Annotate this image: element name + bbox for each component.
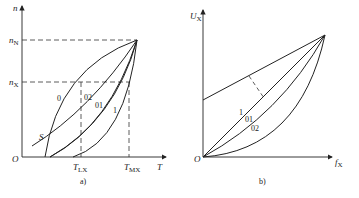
curve-label-01: 01 <box>95 101 103 110</box>
curve-label-02: 02 <box>84 93 92 102</box>
curve-1-b <box>203 35 325 157</box>
panel-b-origin-label: O <box>194 154 201 164</box>
panel-b: UX O fX 1 01 02 b) <box>190 10 343 186</box>
offset-straight-line <box>203 35 325 100</box>
curve-label-1: 1 <box>113 106 117 115</box>
nX-label: nX <box>9 77 19 89</box>
panel-a-y-axis-label: n <box>13 3 18 13</box>
panel-a-x-axis-label: T <box>157 162 163 172</box>
figure-canvas: n nN nX O TLX TMX T 0 02 01 1 S a) UX O … <box>0 0 359 198</box>
curve-label-02-b: 02 <box>251 124 259 133</box>
point-S-label: S <box>39 132 44 142</box>
curve-1 <box>73 40 137 157</box>
curve-label-0: 0 <box>57 94 61 103</box>
panel-b-y-axis-label: UX <box>190 11 202 23</box>
panel-a-origin-label: O <box>12 154 19 164</box>
panel-a: n nN nX O TLX TMX T 0 02 01 1 S a) <box>9 3 166 186</box>
curve-01 <box>50 40 137 157</box>
panel-b-caption: b) <box>259 177 266 186</box>
panel-b-x-axis-label: fX <box>335 157 343 169</box>
compensation-dashed-line <box>249 76 264 98</box>
TMX-label: TMX <box>124 162 140 174</box>
curve-label-1-b: 1 <box>239 108 243 117</box>
curve-02 <box>50 40 137 157</box>
panel-a-caption: a) <box>80 177 87 186</box>
curve-label-01-b: 01 <box>245 115 253 124</box>
TLX-label: TLX <box>73 162 87 174</box>
nN-label: nN <box>9 35 19 47</box>
